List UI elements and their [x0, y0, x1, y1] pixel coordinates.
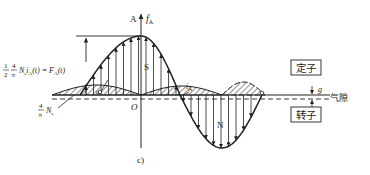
svg-text:4: 4: [39, 102, 43, 110]
slot-mmf-hump: [222, 82, 265, 95]
gap-symbol: g: [318, 85, 322, 94]
axis-label-A: A: [130, 14, 137, 24]
gap-text: 气隙: [330, 92, 348, 103]
slot-formula-leader: [58, 95, 74, 108]
pole-N-label: N: [217, 120, 224, 130]
svg-text:1: 1: [4, 62, 8, 70]
pole-S-label: S: [144, 62, 149, 72]
rotor-label: 转子: [296, 109, 316, 121]
origin-label: O: [131, 102, 138, 112]
svg-text:π: π: [12, 71, 16, 79]
svg-text:4: 4: [12, 62, 16, 70]
figure-caption: c): [137, 155, 144, 165]
svg-text:π: π: [39, 111, 43, 119]
amplitude-formula: 1 2 4 π NsiA(t) = FA(t): [3, 62, 66, 79]
axis-label-f: fA: [146, 13, 154, 25]
svg-text:2: 2: [4, 71, 8, 79]
mmf-wave-diagram: 定子 转子 g 气隙 A fA O S N iA a 1 2 4 π NsiA(…: [0, 0, 370, 175]
slot-formula: 4 π Ns: [38, 102, 53, 119]
current-label: iA: [186, 82, 192, 92]
stator-label: 定子: [296, 62, 316, 74]
svg-text:NsiA(t) = FA(t): NsiA(t) = FA(t): [18, 66, 66, 76]
conductor-marker-right: [260, 91, 264, 95]
svg-text:Ns: Ns: [45, 106, 53, 116]
conductor-marker-label: a: [96, 89, 99, 95]
